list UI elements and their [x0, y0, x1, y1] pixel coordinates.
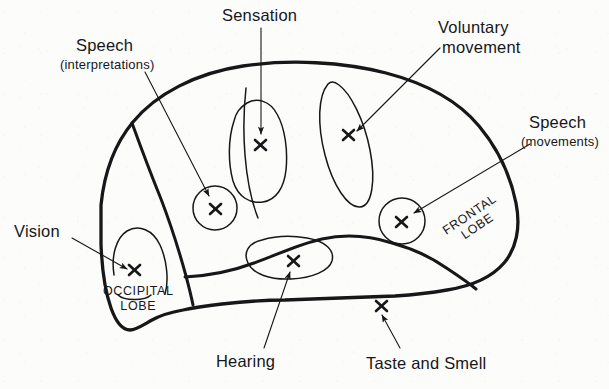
speech-movements-marker: [396, 217, 407, 227]
lobe-label-occipital-line1: OCCIPITAL: [103, 284, 173, 299]
label-speech-interpretations-title: Speech: [76, 36, 133, 55]
functional-zone-outlines: [113, 82, 425, 294]
sensation-marker: [255, 140, 266, 150]
hearing-marker: [288, 256, 299, 266]
label-speech-movements-title: Speech: [529, 113, 586, 132]
brain-function-diagram: Speech (interpretations) Sensation Volun…: [0, 0, 609, 389]
label-voluntary-movement-line1: Voluntary: [438, 18, 509, 37]
leader-speech-interpretations: [145, 72, 209, 196]
label-speech-interpretations-subtitle: (interpretations): [60, 57, 154, 72]
lobe-label-occipital: OCCIPITAL LOBE: [103, 284, 173, 314]
lobe-label-occipital-line2: LOBE: [103, 299, 173, 314]
leader-speech-movements: [414, 144, 530, 213]
leader-taste-and-smell: [382, 315, 400, 348]
voluntary-movement-marker: [343, 130, 354, 140]
label-hearing: Hearing: [216, 352, 275, 371]
speech-interpretations-marker: [210, 204, 221, 214]
voluntary-movement-zone-outline: [320, 82, 373, 207]
leader-hearing: [264, 272, 290, 348]
label-taste-and-smell: Taste and Smell: [366, 354, 486, 373]
label-voluntary-movement-line2: movement: [442, 38, 521, 57]
label-vision: Vision: [14, 222, 60, 241]
label-sensation: Sensation: [222, 6, 297, 25]
vision-marker: [129, 265, 140, 275]
sensation-zone-outline: [229, 100, 286, 202]
label-speech-movements-subtitle: (movements): [521, 134, 599, 149]
sylvian-fissure: [185, 236, 476, 289]
taste-and-smell-marker: [376, 301, 387, 311]
